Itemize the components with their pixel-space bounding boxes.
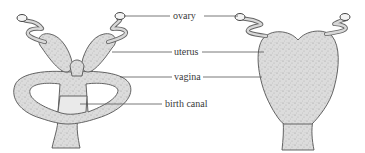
left-birth-canal	[58, 96, 87, 114]
left-specimen	[14, 13, 131, 149]
left-uterine-horn-left	[39, 34, 73, 72]
right-uterus-vagina-body	[258, 31, 338, 124]
right-stem	[282, 120, 314, 150]
right-ovary-right	[340, 14, 350, 21]
right-specimen	[235, 14, 350, 151]
right-ovary-left	[235, 14, 245, 21]
label-ovary: ovary	[171, 11, 198, 21]
label-vagina: vagina	[172, 72, 203, 82]
label-birth-canal: birth canal	[163, 99, 209, 109]
label-uterus: uterus	[172, 47, 200, 57]
left-ovary-right	[115, 13, 125, 20]
left-ovary-left	[17, 15, 27, 22]
left-uterus-body	[70, 60, 84, 76]
